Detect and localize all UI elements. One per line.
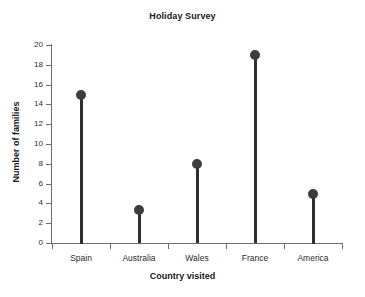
y-tick-label: 20 <box>3 41 43 49</box>
x-tick-boundary <box>226 244 227 249</box>
x-axis-line <box>51 243 343 244</box>
x-tick-boundary <box>342 244 343 249</box>
data-stem-america <box>312 194 315 244</box>
x-tick-boundary <box>284 244 285 249</box>
x-tick-boundary <box>168 244 169 249</box>
data-point-wales <box>192 159 202 169</box>
data-point-australia <box>134 205 144 215</box>
chart-title: Holiday Survey <box>0 11 365 21</box>
y-tick-2 <box>46 223 51 224</box>
data-point-france <box>250 50 260 60</box>
y-tick-18 <box>46 65 51 66</box>
y-tick-label: 0 <box>3 239 43 247</box>
y-tick-14 <box>46 104 51 105</box>
y-axis-line <box>51 44 52 244</box>
y-tick-label: 18 <box>3 61 43 69</box>
data-point-spain <box>76 90 86 100</box>
x-axis-title: Country visited <box>0 271 365 281</box>
y-tick-label: 8 <box>3 160 43 168</box>
y-tick-12 <box>46 124 51 125</box>
y-tick-16 <box>46 85 51 86</box>
x-tick-label-america: America <box>278 253 348 263</box>
data-stem-spain <box>80 95 83 244</box>
y-tick-0 <box>46 243 51 244</box>
y-tick-label: 12 <box>3 120 43 128</box>
y-tick-label: 2 <box>3 219 43 227</box>
y-axis-title: Number of families <box>11 82 21 202</box>
y-tick-4 <box>46 203 51 204</box>
y-tick-label: 4 <box>3 199 43 207</box>
y-tick-6 <box>46 184 51 185</box>
chart-container: Holiday Survey 02468101214161820 SpainAu… <box>0 0 365 297</box>
data-stem-france <box>254 55 257 243</box>
data-point-america <box>308 189 318 199</box>
y-tick-label: 16 <box>3 81 43 89</box>
y-tick-label: 6 <box>3 180 43 188</box>
data-stem-wales <box>196 164 199 243</box>
y-tick-label: 10 <box>3 140 43 148</box>
y-tick-20 <box>46 45 51 46</box>
y-tick-label: 14 <box>3 100 43 108</box>
x-tick-boundary <box>52 244 53 249</box>
x-tick-boundary <box>110 244 111 249</box>
y-tick-10 <box>46 144 51 145</box>
y-tick-8 <box>46 164 51 165</box>
